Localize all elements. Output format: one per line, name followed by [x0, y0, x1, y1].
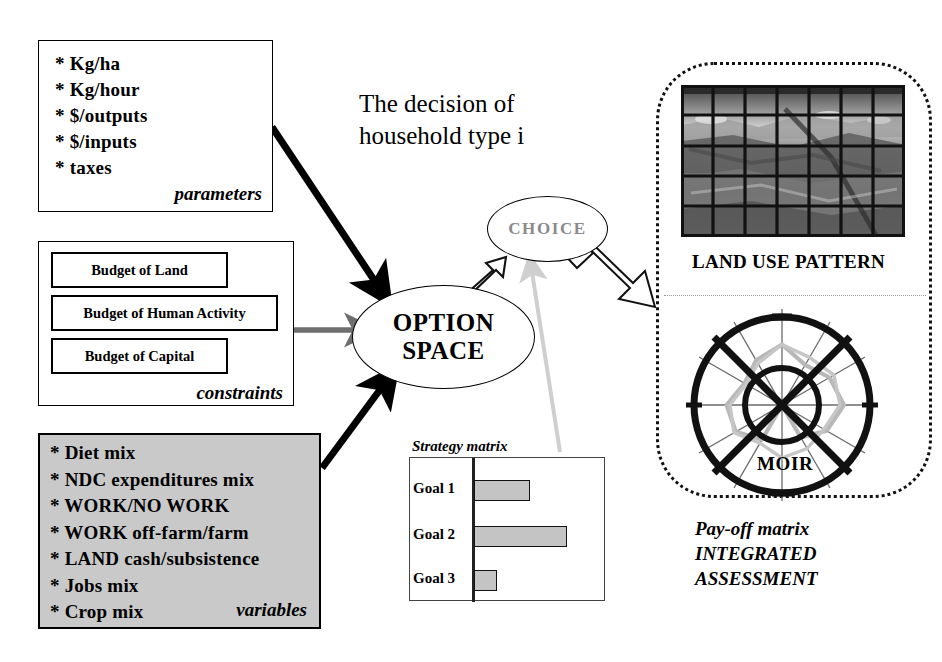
option-space-ellipse: OPTION SPACE	[352, 285, 535, 389]
chart-bar	[474, 480, 530, 501]
parameter-item: * taxes	[55, 155, 147, 181]
chart-bar	[474, 526, 567, 547]
arrow-strategy-matrix-to-choice	[532, 272, 560, 452]
diagram-canvas: * Kg/ha * Kg/hour * $/outputs * $/inputs…	[0, 0, 942, 662]
variable-item: * Crop mix	[50, 599, 259, 626]
constraints-box: Budget of Land Budget of Human Activity …	[38, 241, 294, 406]
parameter-item: * $/outputs	[55, 103, 147, 129]
page-title-line1: The decision of	[359, 88, 524, 120]
page-title: The decision of household type i	[359, 88, 524, 152]
budget-of-land-label: Budget of Land	[91, 262, 188, 279]
budget-of-human-activity-box: Budget of Human Activity	[51, 295, 278, 331]
parameters-tag: parameters	[174, 183, 262, 205]
budget-of-capital-box: Budget of Capital	[51, 338, 228, 374]
variable-item: * WORK off-farm/farm	[50, 520, 259, 547]
chart-category-label: Goal 3	[413, 570, 455, 587]
choice-ellipse: CHOICE	[487, 196, 608, 262]
chart-category-label: Goal 1	[413, 480, 455, 497]
budget-of-human-activity-label: Budget of Human Activity	[83, 305, 245, 322]
payoff-line2: INTEGRATED	[695, 541, 818, 566]
constraints-tag: constraints	[196, 382, 283, 404]
strategy-matrix-title: Strategy matrix	[412, 438, 507, 455]
chart-category-label: Goal 2	[413, 526, 455, 543]
parameters-box: * Kg/ha * Kg/hour * $/outputs * $/inputs…	[38, 40, 273, 212]
moir-radar-chart	[682, 305, 882, 505]
land-use-pattern-caption: LAND USE PATTERN	[692, 251, 885, 273]
chart-bar	[474, 570, 497, 591]
option-space-line2: SPACE	[393, 337, 495, 365]
variable-item: * LAND cash/subsistence	[50, 546, 259, 573]
strategy-matrix-chart: Goal 1 Goal 2 Goal 3	[409, 457, 605, 601]
budget-of-capital-label: Budget of Capital	[85, 348, 195, 365]
variable-item: * WORK/NO WORK	[50, 493, 259, 520]
variable-item: * Jobs mix	[50, 573, 259, 600]
variables-box: * Diet mix * NDC expenditures mix * WORK…	[38, 433, 321, 629]
page-title-line2: household type i	[359, 120, 524, 152]
parameter-item: * Kg/ha	[55, 51, 147, 77]
moir-caption: MOIR	[757, 453, 813, 475]
choice-label: CHOICE	[508, 219, 587, 239]
panel-divider	[664, 295, 926, 296]
variable-item: * Diet mix	[50, 440, 259, 467]
budget-of-land-box: Budget of Land	[51, 252, 228, 288]
arrow-variables-to-option-space	[322, 387, 382, 468]
option-space-line1: OPTION	[393, 309, 495, 337]
payoff-matrix-text: Pay-off matrix INTEGRATED ASSESSMENT	[695, 516, 818, 591]
land-use-pattern-image	[681, 85, 905, 237]
payoff-line3: ASSESSMENT	[695, 566, 818, 591]
variable-item: * NDC expenditures mix	[50, 467, 259, 494]
variables-tag: variables	[236, 599, 307, 621]
parameter-item: * $/inputs	[55, 129, 147, 155]
payoff-line1: Pay-off matrix	[695, 516, 818, 541]
parameter-item: * Kg/hour	[55, 77, 147, 103]
